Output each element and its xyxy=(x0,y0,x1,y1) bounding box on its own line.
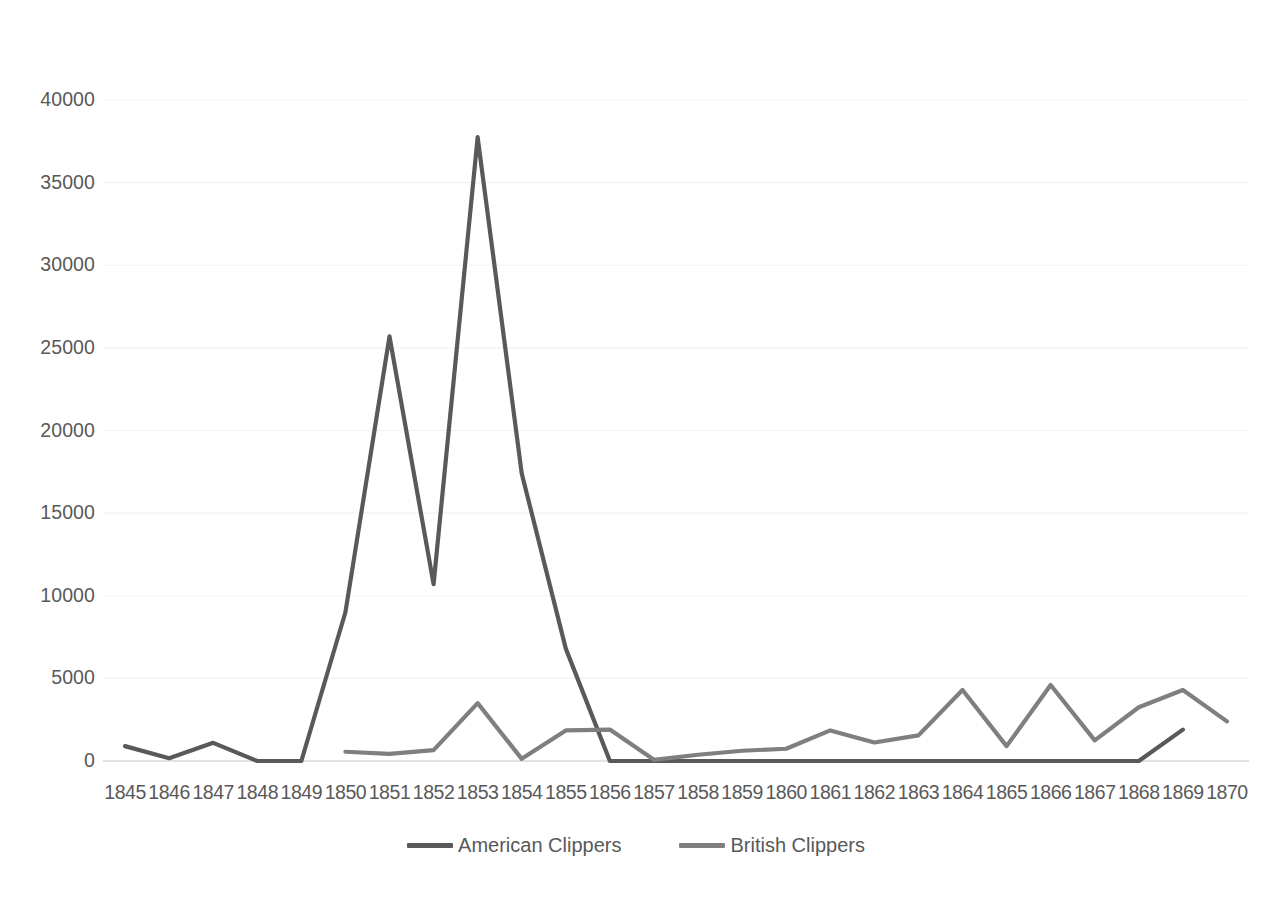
line-chart: 0500010000150002000025000300003500040000… xyxy=(0,0,1272,902)
x-axis-tick-label: 1858 xyxy=(676,779,720,805)
x-axis-tick-label: 1862 xyxy=(852,779,896,805)
x-axis-tick-label: 1847 xyxy=(191,779,235,805)
plot-area xyxy=(103,100,1249,761)
x-axis-tick-label: 1854 xyxy=(500,779,544,805)
y-axis-tick-label: 20000 xyxy=(3,421,95,441)
x-axis-tick-label: 1848 xyxy=(235,779,279,805)
y-axis-tick-label: 35000 xyxy=(3,173,95,193)
legend-label: American Clippers xyxy=(458,835,621,855)
x-axis-tick-label: 1852 xyxy=(412,779,456,805)
x-axis-tick-label: 1861 xyxy=(808,779,852,805)
y-axis-tick-label: 0 xyxy=(3,751,95,771)
x-axis-tick-label: 1850 xyxy=(323,779,367,805)
x-axis-tick-label: 1870 xyxy=(1205,779,1249,805)
x-axis-tick-label: 1855 xyxy=(544,779,588,805)
x-axis-tick-label: 1863 xyxy=(896,779,940,805)
x-axis-tick-label: 1866 xyxy=(1029,779,1073,805)
x-axis-tick-label: 1856 xyxy=(588,779,632,805)
y-axis-tick-label: 25000 xyxy=(3,338,95,358)
legend-label: British Clippers xyxy=(730,835,864,855)
series-line xyxy=(125,137,1183,761)
x-axis-tick-label: 1845 xyxy=(103,779,147,805)
y-axis-tick-label: 10000 xyxy=(3,586,95,606)
series-line xyxy=(345,685,1227,760)
x-axis-tick-label: 1853 xyxy=(456,779,500,805)
legend-item[interactable]: British Clippers xyxy=(679,835,864,855)
y-axis: 0500010000150002000025000300003500040000 xyxy=(0,100,95,761)
x-axis-tick-label: 1865 xyxy=(985,779,1029,805)
legend-color-swatch xyxy=(679,843,725,848)
y-axis-tick-label: 40000 xyxy=(3,90,95,110)
x-axis-tick-label: 1867 xyxy=(1073,779,1117,805)
x-axis-tick-label: 1849 xyxy=(279,779,323,805)
x-axis-tick-label: 1868 xyxy=(1117,779,1161,805)
x-axis-tick-label: 1857 xyxy=(632,779,676,805)
x-axis-tick-label: 1846 xyxy=(147,779,191,805)
x-axis-tick-label: 1851 xyxy=(367,779,411,805)
chart-legend: American ClippersBritish Clippers xyxy=(0,828,1272,862)
y-axis-tick-label: 15000 xyxy=(3,503,95,523)
x-axis: 1845184618471848184918501851185218531854… xyxy=(103,779,1249,805)
series-layer xyxy=(103,100,1249,761)
x-axis-tick-label: 1860 xyxy=(764,779,808,805)
x-axis-tick-label: 1859 xyxy=(720,779,764,805)
legend-item[interactable]: American Clippers xyxy=(407,835,621,855)
x-axis-tick-label: 1869 xyxy=(1161,779,1205,805)
y-axis-tick-label: 30000 xyxy=(3,255,95,275)
y-axis-tick-label: 5000 xyxy=(3,668,95,688)
legend-color-swatch xyxy=(407,843,453,848)
x-axis-tick-label: 1864 xyxy=(940,779,984,805)
